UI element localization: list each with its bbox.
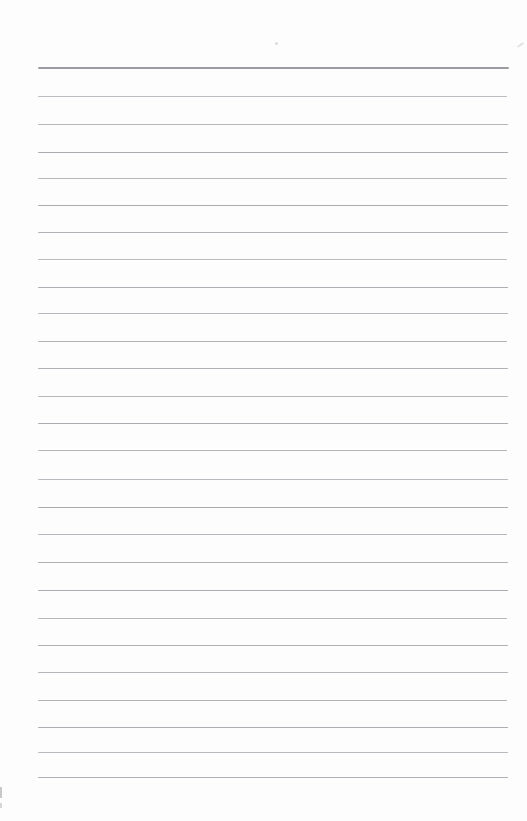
ruled-line	[38, 96, 507, 97]
scanned-lined-paper-page	[0, 0, 527, 821]
ruled-line	[38, 423, 508, 424]
ruled-line	[38, 479, 508, 480]
scratch-mark	[517, 42, 524, 48]
edge-smudge	[0, 787, 2, 798]
ruled-line	[38, 368, 508, 369]
ruled-line	[38, 178, 507, 179]
ruled-line	[38, 396, 508, 397]
header-rule	[38, 67, 509, 69]
ruled-line	[38, 777, 508, 778]
ruled-line	[38, 507, 508, 508]
ruled-line	[38, 700, 507, 701]
ruled-line	[38, 205, 508, 206]
ruled-line	[38, 124, 508, 125]
ruled-line	[38, 590, 508, 591]
ruled-line	[38, 752, 508, 753]
ruled-line	[38, 645, 508, 646]
ruled-line	[38, 562, 508, 563]
ruled-line	[38, 259, 507, 260]
ruled-line	[38, 152, 508, 153]
edge-smudge-small	[0, 803, 2, 808]
ruled-line	[38, 341, 507, 342]
ruled-line	[38, 618, 507, 619]
dust-speck	[275, 42, 278, 45]
ruled-line	[38, 287, 508, 288]
ruled-line	[38, 727, 508, 728]
ruled-line	[38, 450, 507, 451]
ruled-line	[38, 232, 508, 233]
ruled-line	[38, 313, 508, 314]
ruled-line	[38, 534, 507, 535]
ruled-line	[38, 672, 508, 673]
